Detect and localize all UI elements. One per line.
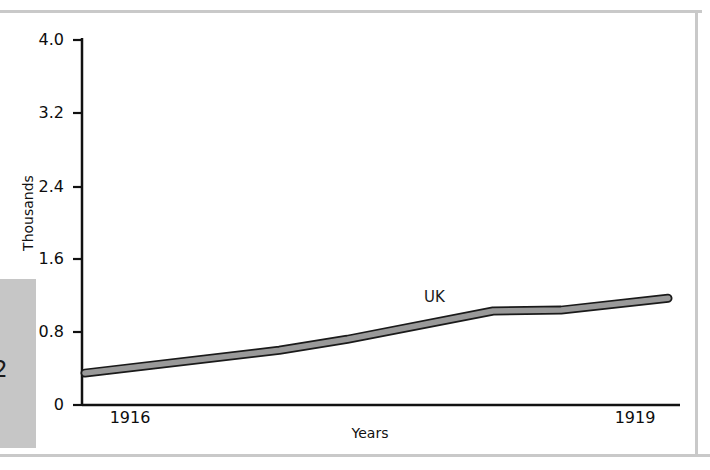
y-tick-label-0: 0 xyxy=(18,395,64,414)
x-axis-title: Years xyxy=(290,425,450,441)
y-tick-label-1: 1.6 xyxy=(18,249,64,268)
y-tick-label-2: 2.4 xyxy=(18,177,64,196)
chart-plot-area xyxy=(0,0,710,470)
x-tick-label-1919: 1919 xyxy=(595,408,675,427)
series-uk-line xyxy=(85,298,668,373)
y-axis-ticks xyxy=(73,40,82,405)
series-uk xyxy=(85,298,668,373)
x-tick-label-1916: 1916 xyxy=(90,408,170,427)
series-label-uk: UK xyxy=(424,288,445,306)
y-tick-label-0p8: 0.8 xyxy=(18,322,64,341)
line-chart: Thousands Years 4.0 3.2 2.4 1.6 0.8 0 19… xyxy=(0,0,710,470)
y-tick-label-4: 4.0 xyxy=(18,30,64,49)
page-canvas: 2 Thousands Years 4.0 3 xyxy=(0,0,710,470)
y-tick-label-3: 3.2 xyxy=(18,103,64,122)
